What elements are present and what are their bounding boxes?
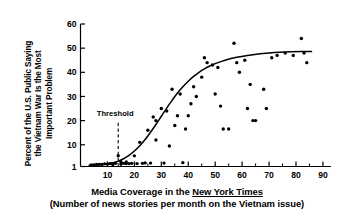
threshold-annotation: Threshold [97,109,134,166]
data-point [138,141,141,144]
data-point [135,162,138,165]
x-tick-label: 20 [130,170,140,180]
data-point [254,119,257,122]
data-point [262,88,265,91]
x-axis-label-primary: Media Coverage in the New York Times [0,186,354,198]
data-point [200,75,203,78]
data-point [195,95,198,98]
data-point [114,162,117,165]
data-point [143,161,146,164]
data-point [133,154,136,157]
data-point [184,127,187,130]
x-tick-label: 60 [237,170,247,180]
data-point [213,92,216,95]
data-point [154,119,157,122]
data-point [265,107,268,110]
x-tick-label: 30 [157,170,167,180]
data-point [165,109,168,112]
y-tick-label: 50 [67,43,77,53]
data-points [90,37,309,167]
data-point [270,56,273,59]
data-point [235,61,238,64]
x-tick-label: 50 [210,170,220,180]
data-point [173,124,176,127]
data-point [162,161,165,164]
chart-figure: Percent of the U.S. Public Saying the Vi… [0,0,354,224]
data-point [170,88,173,91]
x-axis-label-container: Media Coverage in the New York Times (Nu… [0,186,354,209]
y-tick-label: 20 [67,116,77,126]
data-point [246,107,249,110]
data-point [178,92,181,95]
data-point [248,83,251,86]
data-point [203,56,206,59]
y-axis-ticks [81,24,86,167]
x-tick-label: 40 [183,170,193,180]
data-point [149,161,152,164]
threshold-label: Threshold [97,109,134,118]
x-tick-label: 10 [103,170,113,180]
data-point [160,107,163,110]
data-point [305,61,308,64]
data-point [154,138,157,141]
x-axis-label-secondary: (Number of news stories per month on the… [0,198,354,210]
data-point [181,161,184,164]
data-point [300,37,303,40]
x-tick-label: 90 [318,170,328,180]
data-point [243,59,246,62]
data-point [232,42,235,45]
y-tick-label: 60 [67,19,77,29]
data-point [205,61,208,64]
data-point [192,85,195,88]
data-point [130,162,133,165]
data-point [211,63,214,66]
data-point [302,51,305,54]
data-point [219,104,222,107]
y-tick-label: 10 [67,140,77,150]
data-point [292,54,295,57]
y-tick-label: 30 [67,92,77,102]
data-point [275,54,278,57]
data-point [187,114,190,117]
data-point [168,144,171,147]
data-point [152,115,155,118]
x-axis-tick-labels: 102030405060708090 [103,170,328,180]
data-point [216,66,219,69]
data-point [189,102,192,105]
data-point [117,154,120,157]
x-tick-label: 80 [291,170,301,180]
x-axis-label-prefix: Media Coverage in the [91,186,192,197]
y-axis-tick-labels: 1102030405060 [67,19,77,172]
data-point [238,71,241,74]
data-point [284,51,287,54]
data-point [146,129,149,132]
data-point [222,127,225,130]
y-tick-label: 1 [72,162,77,172]
data-point [176,114,179,117]
y-tick-label: 40 [67,67,77,77]
data-point [227,127,230,130]
x-axis-label-newspaper: New York Times [192,186,263,197]
x-tick-label: 70 [264,170,274,180]
axis-lines [81,24,332,167]
